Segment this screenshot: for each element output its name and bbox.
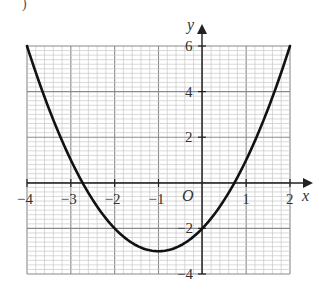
grid — [27, 46, 290, 274]
y-tick-label: 2 — [185, 129, 193, 145]
graph: ) −4−3−2−112642−2−4 x y O — [0, 0, 319, 295]
x-axis-label: x — [301, 187, 309, 204]
x-tick-label: 1 — [242, 191, 250, 207]
y-tick-label: −4 — [177, 266, 193, 282]
y-tick-label: −2 — [177, 220, 193, 236]
y-axis-label: y — [185, 16, 195, 34]
x-tick-label: 2 — [286, 191, 294, 207]
question-part-label: ) — [22, 0, 27, 12]
origin-label: O — [182, 187, 194, 204]
x-tick-label: −3 — [61, 191, 77, 207]
y-tick-label: 6 — [185, 38, 193, 54]
x-tick-label: −4 — [17, 191, 33, 207]
x-tick-label: −1 — [149, 191, 165, 207]
y-tick-label: 4 — [185, 84, 193, 100]
x-tick-label: −2 — [105, 191, 121, 207]
y-axis-arrow-icon — [197, 24, 207, 34]
axes — [27, 24, 313, 274]
